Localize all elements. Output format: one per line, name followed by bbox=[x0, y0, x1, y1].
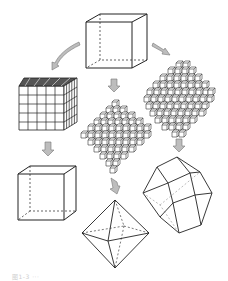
arrow-right-down-icon bbox=[173, 139, 185, 152]
arrow-right-icon bbox=[152, 43, 170, 55]
crystal-diagram bbox=[0, 0, 228, 281]
dodecahedron-stack bbox=[144, 61, 215, 137]
arrow-center-icon bbox=[108, 79, 120, 92]
octahedron-stack bbox=[81, 100, 151, 173]
cube bbox=[18, 166, 76, 220]
cube-stack bbox=[19, 78, 77, 130]
arrow-left-down-icon bbox=[42, 142, 54, 156]
figure-caption: 图1-3 ··· bbox=[12, 272, 39, 281]
arrow-center-down-icon bbox=[110, 178, 120, 194]
arrow-left-icon bbox=[52, 42, 80, 70]
unit-cube bbox=[86, 14, 147, 68]
octahedron bbox=[82, 200, 149, 268]
rhombic-dodecahedron bbox=[143, 157, 212, 233]
